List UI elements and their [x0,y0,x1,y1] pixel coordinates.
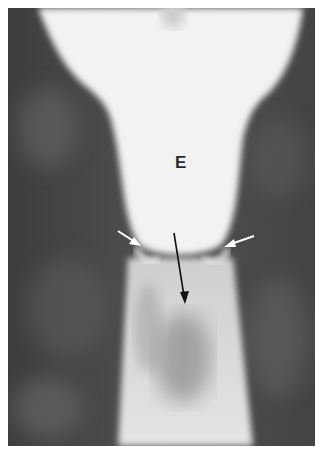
annotations-layer [8,8,315,446]
black-arrow [174,233,189,304]
right-white-arrow [224,236,254,247]
radiograph-image: E [8,8,315,446]
left-white-arrow [118,231,141,246]
esophagus-label: E [175,153,186,173]
